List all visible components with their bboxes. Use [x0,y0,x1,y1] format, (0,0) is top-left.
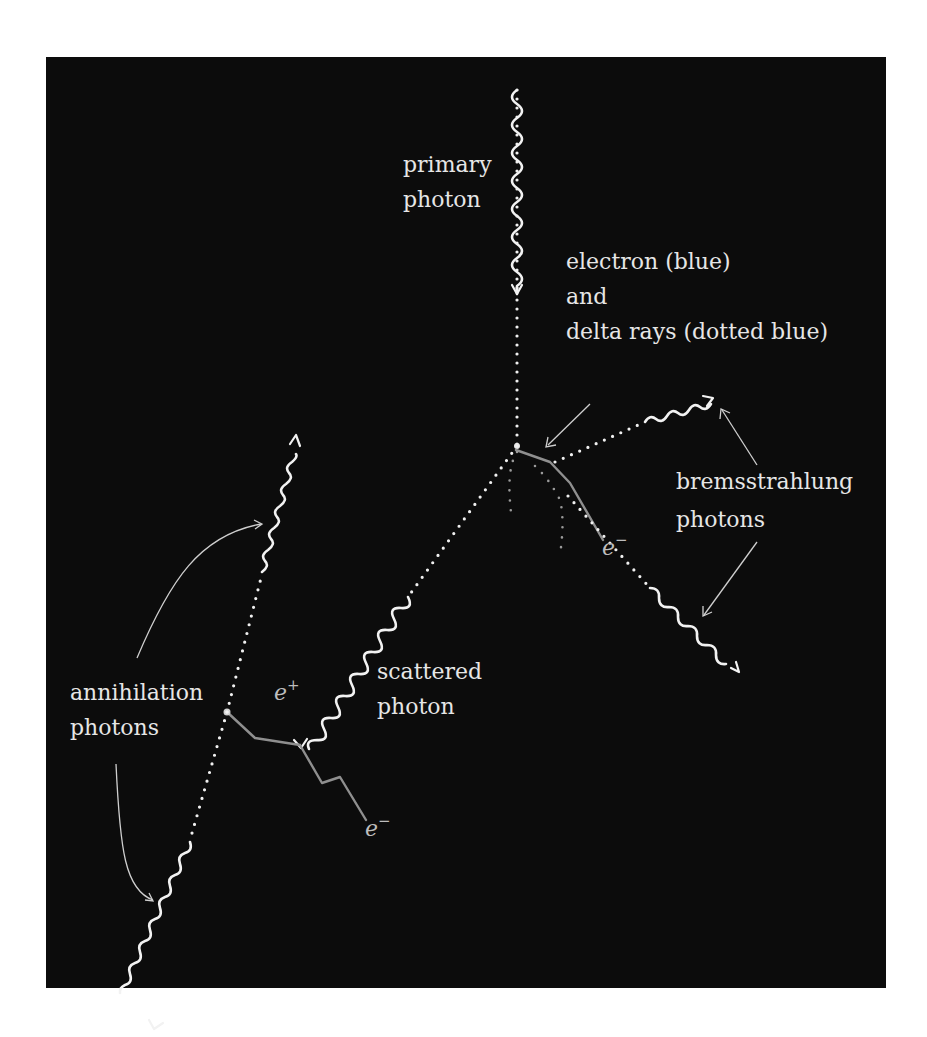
label-electron-2: e− [365,812,391,841]
pointer-annihilation-upper [137,520,262,658]
electron-track-2 [300,745,366,820]
label-bremsstrahlung: bremsstrahlung photons [676,469,860,532]
annihilation-photon-lower [120,712,227,1029]
positron-track [227,712,300,745]
recoil-electron-track [516,450,603,540]
arrow-icon [731,662,739,672]
delta-ray-1 [509,452,517,520]
primary-photon [512,90,522,449]
label-positron: e+ [274,676,300,705]
arrow-icon [290,435,300,446]
label-electron-delta: electron (blue) and delta rays (dotted b… [566,249,828,344]
annihilation-photon-upper [227,435,300,712]
label-annihilation: annihilation photons [70,680,210,740]
pointer-brems-lower [703,542,757,616]
pointer-brems-upper [720,409,757,465]
label-scattered-photon: scattered photon [377,659,489,719]
label-primary-photon: primary photon [403,152,499,212]
pointer-electron [546,404,590,447]
label-electron-1: e− [602,531,628,560]
bremsstrahlung-photon-upper [555,396,713,462]
pointer-annihilation-lower [116,764,153,901]
particle-shower-diagram: primary photon electron (blue) and delta… [0,0,927,1037]
arrow-icon [149,1020,163,1029]
delta-ray-2 [535,466,563,555]
